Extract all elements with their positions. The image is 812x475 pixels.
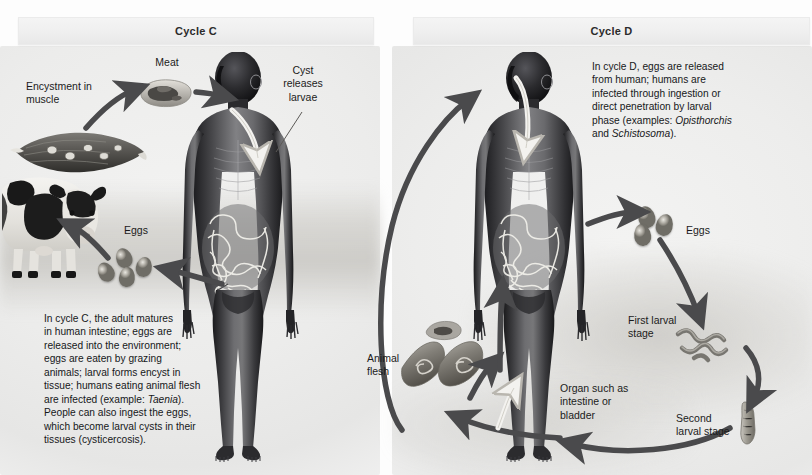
caption-d-line-6: and Schistosoma). — [592, 127, 792, 140]
caption-cycle-d: In cycle D, eggs are released from human… — [592, 60, 792, 141]
caption-c-line-8: People can also ingest the eggs, — [44, 406, 232, 419]
label-first-larval-stage: First larval stage — [628, 314, 690, 341]
label-first-larval-line-1: First larval — [628, 314, 690, 327]
caption-d-line-3: infected through ingestion or — [592, 87, 792, 100]
caption-c-line-1: In cycle C, the adult matures — [44, 312, 232, 325]
egg — [654, 212, 676, 237]
label-organ-line-1: Organ such as — [560, 382, 644, 395]
label-second-larval-line-1: Second — [676, 412, 756, 425]
label-animal-flesh-line-1: Animal — [367, 352, 413, 365]
cycle-d-header-bar: Cycle D — [413, 17, 810, 45]
label-eggs-cycle-c: Eggs — [124, 224, 164, 237]
cycle-d-title: Cycle D — [591, 25, 633, 37]
egg — [113, 246, 134, 270]
egg — [118, 266, 136, 288]
label-animal-flesh: Animal flesh — [367, 352, 413, 379]
caption-d-line-1: In cycle D, eggs are released — [592, 60, 792, 73]
encysted-muscle-illustration — [8, 126, 148, 182]
taxon-schistosoma: Schistosoma — [612, 128, 670, 139]
caption-cycle-c: In cycle C, the adult matures in human i… — [44, 312, 232, 447]
caption-c-line-10: tissues (cysticercosis). — [44, 433, 232, 446]
label-second-larval-line-2: larval stage — [676, 425, 756, 438]
label-cyst-releases-larvae: Cyst releases larvae — [272, 64, 334, 104]
caption-c-line-2: in human intestine; eggs are — [44, 325, 232, 338]
label-second-larval-stage: Second larval stage — [676, 412, 756, 439]
label-first-larval-line-2: stage — [628, 327, 690, 340]
label-organ-line-3: bladder — [560, 409, 644, 422]
diagram-canvas: Cycle C Cycle D — [0, 0, 812, 475]
egg — [94, 259, 118, 284]
label-cyst-line-1: Cyst — [272, 64, 334, 77]
label-encystment-in-muscle: Encystment in muscle — [26, 80, 126, 107]
eggs-group-cycle-c — [98, 248, 160, 292]
label-encystment-line-1: Encystment in — [26, 80, 126, 93]
caption-c-line-4: eggs are eaten by grazing — [44, 352, 232, 365]
label-animal-flesh-line-2: flesh — [367, 365, 413, 378]
label-meat: Meat — [142, 56, 192, 69]
caption-c-line-7: are infected (example: Taenia). — [44, 393, 232, 406]
taxon-taenia: Taenia — [148, 394, 178, 405]
cycle-c-header-bar: Cycle C — [18, 17, 374, 45]
caption-d-line-4: direct penetration by larval — [592, 100, 792, 113]
flesh-morsel-illustration — [424, 320, 464, 346]
caption-d-line-5: phase (examples: Opisthorchis — [592, 114, 792, 127]
label-organ-line-2: intestine or — [560, 395, 644, 408]
taxon-opisthorchis: Opisthorchis — [675, 115, 732, 126]
caption-c-line-5: animals; larval forms encyst in — [44, 366, 232, 379]
caption-c-line-6: tissue; humans eating animal flesh — [44, 379, 232, 392]
label-cyst-line-3: larvae — [272, 91, 334, 104]
meat-illustration — [138, 77, 194, 115]
label-eggs-cycle-d: Eggs — [686, 224, 730, 237]
label-encystment-line-2: muscle — [26, 93, 126, 106]
eggs-group-cycle-d — [634, 206, 682, 248]
label-organ-such-as: Organ such as intestine or bladder — [560, 382, 644, 422]
caption-d-line-2: from human; humans are — [592, 73, 792, 86]
caption-c-line-9: which become larval cysts in their — [44, 420, 232, 433]
cycle-c-title: Cycle C — [175, 25, 217, 37]
label-cyst-line-2: releases — [272, 77, 334, 90]
egg — [134, 256, 154, 279]
caption-c-line-3: released into the environment; — [44, 339, 232, 352]
